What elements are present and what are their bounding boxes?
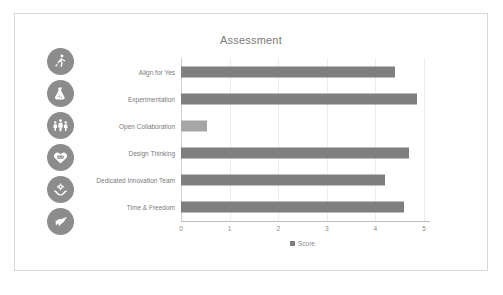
bar-experimentation[interactable] — [181, 93, 417, 104]
category-label: Dedicated Innovation Team — [96, 176, 175, 183]
dove-icon — [47, 208, 74, 235]
legend-swatch-score — [290, 241, 295, 246]
legend-label-score: Score — [298, 240, 315, 247]
category-label: Time & Freedom — [127, 203, 175, 210]
bar-time-and-freedom[interactable] — [181, 201, 404, 212]
slide-frame: Assessment — [14, 13, 488, 271]
x-tick-1: 1 — [228, 225, 232, 232]
category-label: Experimentation — [128, 95, 175, 102]
bar-open-collaboration[interactable] — [181, 120, 207, 131]
icon-column — [47, 48, 87, 218]
chart-legend[interactable]: Score — [181, 240, 424, 247]
hands-gear-icon — [47, 176, 74, 203]
category-axis-line — [181, 221, 430, 222]
people-group-icon — [47, 112, 74, 139]
gridline-1 — [230, 58, 231, 222]
x-tick-0: 0 — [179, 225, 183, 232]
category-label: Align for Yes — [139, 68, 175, 75]
brain-heart-icon — [47, 144, 74, 171]
x-tick-3: 3 — [325, 225, 329, 232]
category-label: Design Thinking — [129, 149, 176, 156]
value-axis-line — [181, 58, 182, 222]
gridline-4 — [375, 58, 376, 222]
plot-area: Align for Yes Experimentation Open Colla… — [181, 58, 424, 222]
category-label: Open Collaboration — [119, 122, 175, 129]
flask-icon — [47, 80, 74, 107]
bar-align-for-yes[interactable] — [181, 66, 395, 77]
x-tick-4: 4 — [374, 225, 378, 232]
gridline-2 — [278, 58, 279, 222]
bar-dedicated-innovation-team[interactable] — [181, 174, 385, 185]
x-tick-2: 2 — [276, 225, 280, 232]
person-running-icon — [47, 48, 74, 75]
gridline-5 — [424, 58, 425, 222]
gridline-3 — [327, 58, 328, 222]
x-axis-ticks: 0 1 2 3 4 5 — [181, 223, 424, 237]
chart-title: Assessment — [15, 34, 487, 46]
bar-design-thinking[interactable] — [181, 147, 409, 158]
x-tick-5: 5 — [422, 225, 426, 232]
